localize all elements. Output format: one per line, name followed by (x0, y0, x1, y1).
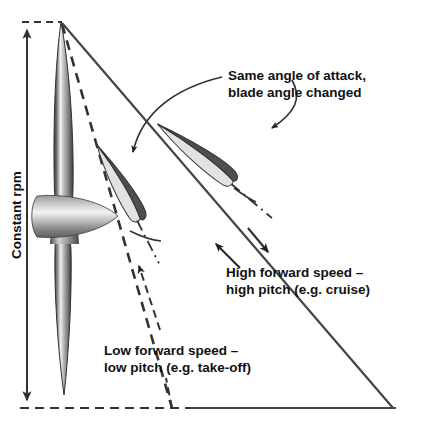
angle-arc-high-pitch (234, 188, 256, 202)
label-same-angle-line2: blade angle changed (228, 85, 362, 100)
label-low-forward-speed-line2: low pitch (e.g. take-off) (104, 360, 251, 375)
aerofoil-section-low-pitch (92, 139, 170, 267)
propeller-pitch-diagram: Constant rpm Same angle of attack, blade… (0, 0, 428, 425)
label-low-forward-speed-line1: Low forward speed – (104, 343, 239, 358)
label-constant-rpm: Constant rpm (9, 171, 24, 259)
aerofoil-low-pitch-chord-extension (137, 221, 159, 264)
propeller-blade-lower (55, 218, 71, 395)
aerofoil-high-pitch-chord-extension (231, 184, 272, 218)
aerofoil-section-high-pitch (154, 113, 280, 223)
propeller-hub (32, 195, 118, 237)
label-high-forward-speed-line2: high pitch (e.g. cruise) (226, 282, 370, 297)
label-high-forward-speed-line1: High forward speed – (226, 265, 364, 280)
flow-direction-arrow-high-speed (248, 228, 268, 252)
diagram-canvas: Constant rpm Same angle of attack, blade… (0, 0, 428, 425)
label-same-angle-line1: Same angle of attack, (228, 68, 366, 83)
propeller-planform (32, 22, 118, 395)
leader-low-forward-speed (139, 266, 160, 330)
